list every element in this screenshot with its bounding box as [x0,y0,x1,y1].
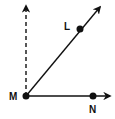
angle-diagram: M L N [0,0,115,119]
label-l: L [64,21,70,32]
point-n [90,93,97,100]
label-m: M [9,91,17,102]
ray-ml [26,7,100,96]
point-l [77,26,84,33]
label-n: N [89,104,96,115]
point-m [23,93,30,100]
